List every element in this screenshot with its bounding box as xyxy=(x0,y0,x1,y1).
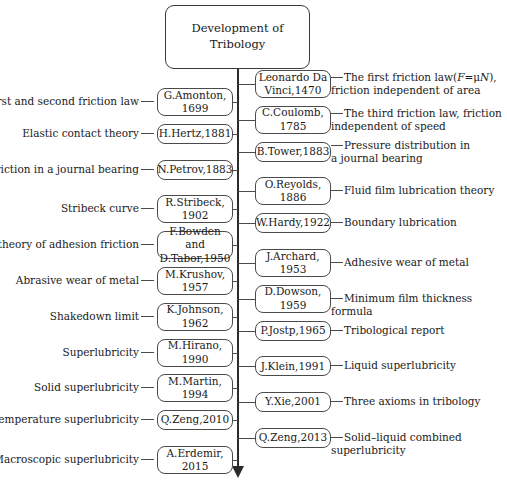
timeline-label-text: Three axioms in tribology xyxy=(344,395,481,407)
label-connector-dash xyxy=(141,280,154,281)
node-axis-connector xyxy=(238,438,255,439)
timeline-node-left: G.Amonton,1699 xyxy=(157,88,233,116)
node-axis-connector xyxy=(233,245,238,246)
timeline-node-person: Y.Xie,2001 xyxy=(265,395,321,408)
timeline-label-right: Minimum film thickness formula xyxy=(331,292,507,318)
timeline-node-person: D.Dowson,1959 xyxy=(265,285,322,312)
timeline-node-right: J.Archard,1953 xyxy=(255,249,331,277)
node-axis-connector xyxy=(238,84,255,85)
timeline-node-person: Q.Zeng,2013 xyxy=(259,431,327,444)
node-axis-connector xyxy=(233,209,238,210)
timeline-label-right: Adhesive wear of metal xyxy=(331,256,469,269)
diagram-title-line1: Development of xyxy=(192,21,284,35)
timeline-node-person: C.Coulomb,1785 xyxy=(262,106,324,133)
label-connector-dash xyxy=(141,208,154,209)
node-axis-connector xyxy=(238,223,255,224)
timeline-label-right: Tribological report xyxy=(331,324,445,337)
node-axis-connector xyxy=(238,402,255,403)
timeline-label-left: Abrasive wear of metal xyxy=(16,274,154,287)
node-axis-connector xyxy=(233,460,238,461)
timeline-label-left: Shakedown limit xyxy=(50,310,154,323)
timeline-node-person: Q.Zeng,2010 xyxy=(161,413,229,426)
timeline-label-left: Solid superlubricity xyxy=(34,381,154,394)
timeline-node-person: N.Petrov,1883 xyxy=(158,163,233,176)
timeline-label-text: The third friction law, frictionindepend… xyxy=(331,107,502,132)
label-connector-dash xyxy=(141,169,154,170)
timeline-node-person: W.Hardy,1922 xyxy=(256,216,330,229)
timeline-label-left: High temperature superlubricity xyxy=(0,413,154,426)
node-axis-connector xyxy=(238,191,255,192)
timeline-node-person: R.Stribeck,1902 xyxy=(165,196,225,223)
timeline-label-text: Friction in a journal bearing xyxy=(0,163,139,175)
label-connector-dash xyxy=(331,262,343,263)
timeline-node-person: G.Amonton,1699 xyxy=(164,89,227,116)
timeline-node-person: J.Klein,1991 xyxy=(261,360,325,373)
timeline-node-right: Leonardo DaVinci,1470 xyxy=(255,70,331,98)
timeline-label-left: Superlubricity xyxy=(62,346,154,359)
timeline-node-person: P.Jostp,1965 xyxy=(260,324,325,337)
timeline-label-right: Solid–liquid combined superlubricity xyxy=(331,431,507,457)
node-axis-connector xyxy=(233,170,238,171)
label-connector-dash xyxy=(331,77,343,78)
node-axis-connector xyxy=(233,388,238,389)
timeline-label-text: The first and second friction law xyxy=(0,95,139,107)
timeline-node-right: P.Jostp,1965 xyxy=(255,321,331,341)
timeline-label-right: The third friction law, frictionindepend… xyxy=(331,107,502,133)
timeline-label-right: Pressure distribution ina journal bearin… xyxy=(331,139,470,165)
timeline-node-person: J.Archard,1953 xyxy=(266,250,319,277)
label-connector-dash xyxy=(331,190,343,191)
node-axis-connector xyxy=(238,366,255,367)
timeline-node-left: F.Bowden andD.Tabor,1950 xyxy=(157,231,233,259)
timeline-node-person: H.Hertz,1881 xyxy=(159,127,232,140)
timeline-label-text: Pressure distribution ina journal bearin… xyxy=(331,139,470,164)
timeline-label-text: Elastic contact theory xyxy=(22,127,139,139)
diagram-title-box: Development of Tribology xyxy=(165,5,310,69)
node-axis-connector xyxy=(233,134,238,135)
timeline-label-right: The first friction law(F=μN),friction in… xyxy=(331,71,497,97)
timeline-label-left: Macroscopic superlubricity xyxy=(0,453,154,466)
timeline-label-text: The first friction law(F=μN),friction in… xyxy=(331,71,497,96)
label-connector-dash xyxy=(331,222,343,223)
timeline-node-person: O.Reyolds,1886 xyxy=(265,178,322,205)
label-connector-dash xyxy=(141,352,154,353)
timeline-axis xyxy=(237,72,239,470)
timeline-node-right: Y.Xie,2001 xyxy=(255,392,331,412)
timeline-label-text: High temperature superlubricity xyxy=(0,413,139,425)
timeline-label-right: Boundary lubrication xyxy=(331,216,457,229)
label-connector-dash xyxy=(331,330,343,331)
timeline-label-text: Abrasive wear of metal xyxy=(16,274,139,286)
timeline-label-text: Adhesive wear of metal xyxy=(344,256,469,268)
node-axis-connector xyxy=(238,152,255,153)
label-connector-dash xyxy=(141,419,154,420)
node-axis-connector xyxy=(233,353,238,354)
timeline-label-text: Tribological report xyxy=(344,324,445,336)
timeline-node-left: M.Martin,1994 xyxy=(157,374,233,402)
node-axis-connector xyxy=(238,120,255,121)
node-axis-connector xyxy=(233,317,238,318)
timeline-node-right: Q.Zeng,2013 xyxy=(255,428,331,448)
timeline-label-text: Minimum film thickness formula xyxy=(331,292,472,317)
timeline-label-text: Solid–liquid combined superlubricity xyxy=(331,431,462,456)
timeline-node-left: M.Krushov,1957 xyxy=(157,267,233,295)
timeline-label-text: Fluid film lubrication theory xyxy=(344,184,494,196)
node-axis-connector xyxy=(233,420,238,421)
timeline-node-left: M.Hirano,1990 xyxy=(157,339,233,367)
timeline-label-left: Elastic contact theory xyxy=(22,127,154,140)
timeline-node-right: W.Hardy,1922 xyxy=(255,213,331,233)
timeline-label-left: The theory of adhesion friction xyxy=(0,238,154,251)
timeline-label-text: Solid superlubricity xyxy=(34,381,139,393)
label-connector-dash xyxy=(331,145,343,146)
timeline-label-text: Liquid superlubricity xyxy=(344,359,456,371)
node-axis-connector xyxy=(238,331,255,332)
tribology-development-timeline: Development of Tribology G.Amonton,1699T… xyxy=(0,0,507,497)
timeline-label-text: Shakedown limit xyxy=(50,310,139,322)
timeline-label-text: Stribeck curve xyxy=(61,202,139,214)
timeline-label-right: Liquid superlubricity xyxy=(331,359,456,372)
timeline-node-person: M.Krushov,1957 xyxy=(165,268,225,295)
timeline-label-text: The theory of adhesion friction xyxy=(0,238,139,250)
label-connector-dash xyxy=(331,365,343,366)
timeline-node-left: H.Hertz,1881 xyxy=(157,124,233,144)
node-axis-connector xyxy=(233,281,238,282)
timeline-node-person: A.Erdemir,2015 xyxy=(166,447,223,474)
timeline-node-person: K.Johnson,1962 xyxy=(166,303,223,330)
